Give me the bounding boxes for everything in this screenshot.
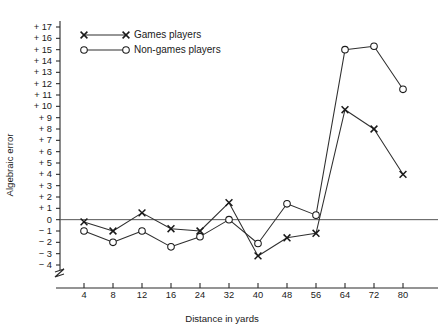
- x-tick-label: 80: [398, 290, 408, 300]
- x-tick-label: 24: [195, 290, 205, 300]
- x-tick-label: 40: [253, 290, 263, 300]
- y-tick-label: − 1: [39, 226, 52, 236]
- data-point-circle: [284, 201, 291, 208]
- x-tick-label: 72: [369, 290, 379, 300]
- x-tick-label: 8: [110, 290, 115, 300]
- data-point-circle: [371, 43, 378, 50]
- y-tick-label: − 3: [39, 249, 52, 259]
- y-tick-label: − 2: [39, 237, 52, 247]
- data-point-circle: [313, 212, 320, 219]
- data-point-circle: [168, 244, 175, 251]
- data-point-circle: [139, 228, 146, 235]
- legend-label: Games players: [134, 29, 201, 40]
- y-tick-label: + 16: [34, 33, 52, 43]
- x-tick-label: 4: [81, 290, 86, 300]
- x-axis-title: Distance in yards: [185, 313, 259, 324]
- y-tick-label: + 10: [34, 101, 52, 111]
- chart-legend: Games playersNon-games players: [81, 29, 221, 55]
- y-tick-label: + 8: [39, 124, 52, 134]
- legend-marker-circle: [81, 47, 88, 54]
- legend-label: Non-games players: [134, 44, 221, 55]
- y-tick-label: + 14: [34, 56, 52, 66]
- y-tick-label: + 4: [39, 169, 52, 179]
- y-tick-label: + 1: [39, 203, 52, 213]
- line-chart: + 17+ 16+ 15+ 14+ 13+ 12+ 11+ 10+ 9+ 8+ …: [0, 0, 445, 336]
- legend-marker-circle: [123, 47, 130, 54]
- data-point-circle: [342, 46, 349, 53]
- y-tick-label: + 3: [39, 181, 52, 191]
- y-tick-label: − 4: [39, 260, 52, 270]
- data-point-circle: [81, 228, 88, 235]
- data-point-circle: [197, 233, 204, 240]
- x-tick-label: 56: [311, 290, 321, 300]
- x-tick-label: 48: [282, 290, 292, 300]
- data-point-circle: [255, 240, 262, 247]
- x-tick-label: 12: [137, 290, 147, 300]
- data-point-circle: [400, 86, 407, 93]
- y-tick-label: + 9: [39, 113, 52, 123]
- axis-break-icon: [55, 269, 64, 277]
- x-tick-label: 16: [166, 290, 176, 300]
- x-tick-label: 32: [224, 290, 234, 300]
- x-tick-label: 64: [340, 290, 350, 300]
- y-axis-title: Algebraic error: [4, 133, 15, 197]
- y-tick-label: + 12: [34, 79, 52, 89]
- y-tick-label: + 6: [39, 147, 52, 157]
- y-tick-label: + 11: [34, 90, 52, 100]
- y-tick-label: + 7: [39, 135, 52, 145]
- data-point-circle: [110, 239, 117, 246]
- y-tick-label: + 15: [34, 45, 52, 55]
- y-tick-label: 0: [47, 215, 52, 225]
- data-series-group: [81, 43, 407, 259]
- y-tick-label: + 17: [34, 22, 52, 32]
- data-point-circle: [226, 216, 233, 223]
- chart-container: + 17+ 16+ 15+ 14+ 13+ 12+ 11+ 10+ 9+ 8+ …: [0, 0, 445, 336]
- series-line: [84, 46, 403, 247]
- y-tick-label: + 5: [39, 158, 52, 168]
- x-axis-ticks: 4812162432404856647280: [81, 283, 408, 300]
- axis-lines: [55, 21, 438, 288]
- series-2: [81, 43, 407, 250]
- y-axis-ticks: + 17+ 16+ 15+ 14+ 13+ 12+ 11+ 10+ 9+ 8+ …: [34, 22, 60, 270]
- y-tick-label: + 2: [39, 192, 52, 202]
- series-line: [84, 110, 403, 256]
- y-tick-label: + 13: [34, 67, 52, 77]
